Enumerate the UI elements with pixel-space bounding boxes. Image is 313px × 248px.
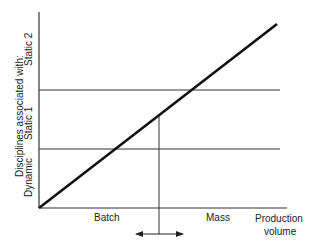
y-level-static-1: Static 1 xyxy=(22,107,35,140)
x-axis-title-line2: volume xyxy=(264,226,296,237)
x-region-batch: Batch xyxy=(94,212,120,223)
x-axis-title-line1: Production xyxy=(255,213,303,224)
diagram-canvas xyxy=(0,0,313,248)
y-level-static-2: Static 2 xyxy=(22,33,35,66)
x-region-mass: Mass xyxy=(206,212,230,223)
y-level-dynamic: Dynamic xyxy=(22,158,35,197)
diagonal-trend-line xyxy=(39,24,277,208)
